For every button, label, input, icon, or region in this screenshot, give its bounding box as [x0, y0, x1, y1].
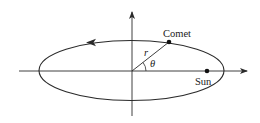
orbit-svg: Comet Sun r θ	[0, 0, 260, 123]
sun-point	[205, 69, 210, 74]
comet-label: Comet	[163, 28, 191, 39]
angle-arc	[143, 62, 146, 71]
sun-label: Sun	[195, 76, 212, 87]
orbit-diagram: Comet Sun r θ	[0, 0, 260, 123]
comet-point	[167, 40, 172, 45]
radius-label: r	[144, 47, 149, 58]
angle-label: θ	[150, 58, 155, 69]
orbit-ellipse	[39, 41, 224, 101]
